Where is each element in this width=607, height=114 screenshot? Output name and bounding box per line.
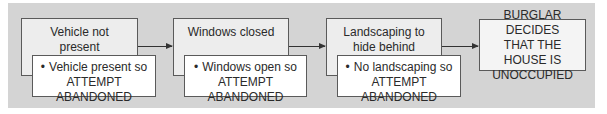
- step-3-failure-result: ATTEMPT ABANDONED: [338, 75, 460, 105]
- outcome-line-1: BURGLAR DECIDES: [484, 8, 581, 38]
- arrow-1-to-2: [138, 46, 172, 47]
- outcome-line-2: THAT THE HOUSE IS: [484, 38, 581, 68]
- step-1-failure-box: Vehicle present so ATTEMPT ABANDONED: [32, 55, 156, 97]
- step-3-condition-line-1: Landscaping to: [327, 25, 441, 40]
- step-2-failure-text: Windows open so: [185, 60, 306, 75]
- step-3-condition-line-2: hide behind: [327, 40, 441, 55]
- step-1-failure-text: Vehicle present so: [33, 60, 155, 75]
- step-1-failure-result: ATTEMPT ABANDONED: [33, 75, 155, 105]
- outcome-line-3: UNOCCUPIED: [484, 68, 581, 83]
- step-3-failure-box: No landscaping so ATTEMPT ABANDONED: [337, 55, 461, 97]
- outcome-box: BURGLAR DECIDES THAT THE HOUSE IS UNOCCU…: [479, 19, 586, 71]
- arrow-3-to-outcome: [442, 46, 478, 47]
- step-1-condition-line-1: Vehicle not: [22, 25, 137, 40]
- step-1-condition-line-2: present: [22, 40, 137, 55]
- step-2-failure-box: Windows open so ATTEMPT ABANDONED: [184, 55, 307, 97]
- arrow-2-to-3: [289, 46, 325, 47]
- step-2-failure-result: ATTEMPT ABANDONED: [185, 75, 306, 105]
- step-2-condition-line-1: Windows closed: [174, 25, 288, 40]
- step-3-failure-text: No landscaping so: [338, 60, 460, 75]
